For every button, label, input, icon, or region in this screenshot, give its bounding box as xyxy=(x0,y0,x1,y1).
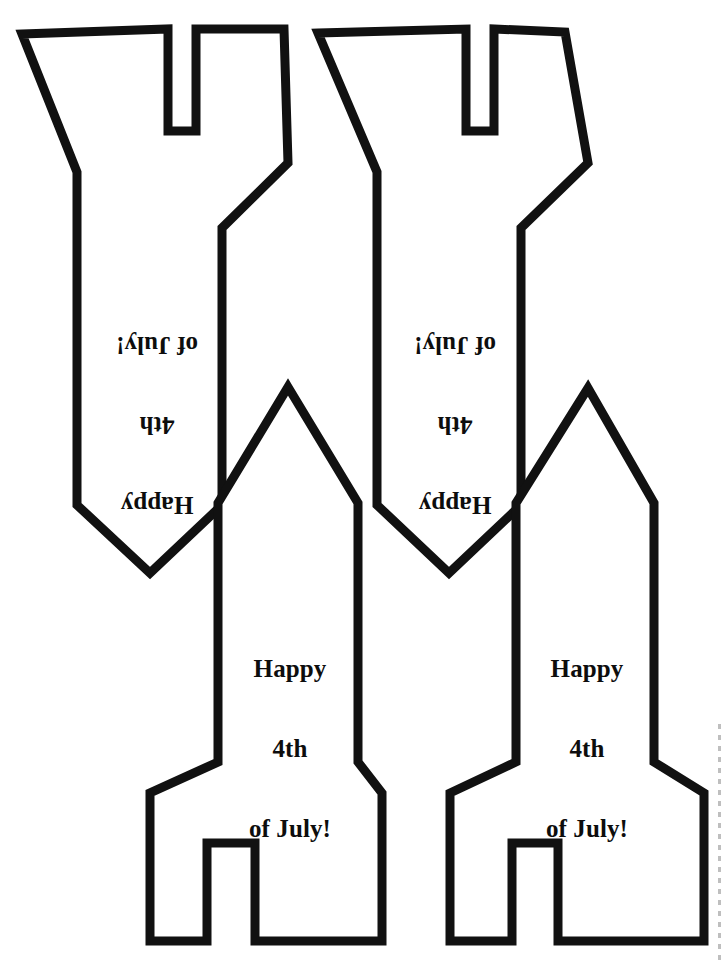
label-line-3: of July! xyxy=(215,816,365,843)
label-line-1: Happy xyxy=(215,656,365,683)
label-line-1: Happy xyxy=(512,656,662,683)
label-line-1: Happy xyxy=(380,492,530,519)
label-line-1: Happy xyxy=(82,492,232,519)
template-page: Happy 4th of July! Happy 4th of July! Ha… xyxy=(0,0,721,965)
label-line-2: 4th xyxy=(215,736,365,763)
label-line-2: 4th xyxy=(82,412,232,439)
rocket-bottom-left-label: Happy 4th of July! xyxy=(215,602,365,896)
label-line-3: of July! xyxy=(380,332,530,359)
label-line-3: of July! xyxy=(512,816,662,843)
rocket-bottom-right-label: Happy 4th of July! xyxy=(512,602,662,896)
label-line-2: 4th xyxy=(380,412,530,439)
label-line-3: of July! xyxy=(82,332,232,359)
rocket-top-right-label: Happy 4th of July! xyxy=(380,278,530,572)
label-line-2: 4th xyxy=(512,736,662,763)
rocket-top-left-label: Happy 4th of July! xyxy=(82,278,232,572)
